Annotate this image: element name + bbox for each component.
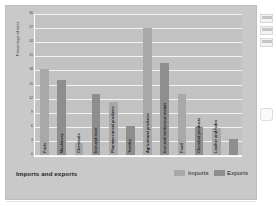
bar-group: Chemicals — [75, 14, 84, 155]
legend: Imports Exports — [174, 169, 248, 176]
category-label: Iron and steel — [93, 128, 98, 153]
category-label: Chemicals — [76, 133, 81, 153]
side-widget-3[interactable] — [260, 38, 273, 47]
legend-label-exports: Exports — [227, 169, 248, 176]
y-axis-tick-label: 0 — [31, 153, 33, 156]
category-label: Machinery — [58, 134, 63, 153]
legend-item-imports: Imports — [174, 169, 208, 176]
bar-group: Fuels — [40, 14, 49, 155]
side-panel — [258, 0, 276, 206]
category-label: Iron and nonferrous metals — [161, 103, 166, 154]
category-label: Chemical products — [196, 118, 201, 153]
side-widget-round[interactable] — [260, 108, 273, 121]
y-axis-tick-label: 18 — [29, 69, 33, 72]
chart-title: Imports and exports — [16, 170, 77, 177]
category-label: Textiles — [127, 139, 132, 153]
bar-group: Chemical products — [195, 14, 204, 155]
bar-group: Textiles — [126, 14, 135, 155]
legend-swatch-imports — [174, 170, 185, 176]
side-widget-1[interactable] — [260, 14, 273, 23]
y-axis-tick-label: 9 — [31, 111, 33, 114]
bar-group: Pharmaceutical products — [109, 14, 118, 155]
bar-series: FuelsMachineryChemicalsIron and steelPha… — [36, 14, 242, 155]
category-label: Pharmaceutical products — [110, 106, 115, 153]
side-widget-bar-icon — [262, 16, 272, 19]
y-axis-tick-label: 15 — [29, 83, 33, 86]
bar-group — [229, 14, 238, 155]
page-root: Percentage of total 036912151821242730 F… — [0, 0, 276, 206]
y-axis-tick-label: 12 — [29, 97, 33, 100]
bar-group: Machinery — [57, 14, 66, 155]
category-label: Food — [179, 143, 184, 153]
bar[interactable] — [229, 139, 238, 155]
category-label: Agricultural products — [144, 113, 149, 153]
y-axis-tick-label: 3 — [31, 139, 33, 142]
side-widget-bar-icon — [262, 40, 272, 43]
side-widget-2[interactable] — [260, 26, 273, 35]
y-axis-tick-label: 27 — [29, 26, 33, 29]
bar-group: Leather and hides — [212, 14, 221, 155]
legend-swatch-exports — [214, 170, 225, 176]
category-label: Fuels — [41, 143, 46, 153]
y-axis-tick-label: 24 — [29, 40, 33, 43]
bar-group: Iron and nonferrous metals — [160, 14, 169, 155]
y-axis-tick-label: 6 — [31, 125, 33, 128]
gridline — [35, 155, 242, 156]
legend-label-imports: Imports — [188, 169, 209, 176]
y-axis-tick-label: 21 — [29, 55, 33, 58]
side-widget-bar-icon — [262, 28, 272, 31]
bar-group: Food — [178, 14, 187, 155]
bottom-divider — [6, 201, 256, 202]
y-axis-title: Percentage of total — [16, 22, 20, 56]
bar-group: Agricultural products — [143, 14, 152, 155]
legend-item-exports: Exports — [214, 169, 248, 176]
category-label: Leather and hides — [213, 120, 218, 153]
bar-group: Iron and steel — [92, 14, 101, 155]
legend-strip: Imports and exports Imports Exports — [16, 166, 248, 182]
chart-figure: Percentage of total 036912151821242730 F… — [6, 6, 256, 199]
plot-area: 036912151821242730 FuelsMachineryChemica… — [34, 14, 242, 157]
y-axis-tick-label: 30 — [29, 12, 33, 15]
